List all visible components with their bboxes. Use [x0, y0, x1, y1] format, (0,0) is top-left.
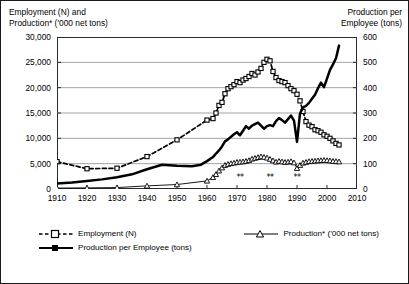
left-axis-title: Employment (N) and Production* ('000 net… — [9, 7, 108, 28]
legend-key-employment-icon — [39, 229, 73, 239]
legend-key-production-icon — [244, 229, 278, 239]
x-axis-tick-label: 1980 — [258, 193, 277, 203]
footnote-asterisk-marker: ** — [293, 173, 300, 182]
y-axis-left-tick-label: 0 — [3, 184, 51, 194]
x-axis-tick-label: 1910 — [48, 193, 67, 203]
series-production-net-tons — [57, 154, 342, 189]
plot-canvas — [57, 37, 357, 189]
legend-label-employment: Employment (N) — [78, 229, 136, 239]
x-axis-tick-label: 1920 — [78, 193, 97, 203]
plot-area — [57, 37, 357, 189]
y-axis-right-tick-label: 0 — [363, 184, 403, 194]
y-axis-left-tick-label: 15,000 — [3, 108, 51, 118]
x-axis-tick-label: 2000 — [318, 193, 337, 203]
footnote-asterisk-marker: ** — [266, 173, 273, 182]
series-employment-n — [57, 57, 341, 171]
x-axis-tick-label: 1950 — [168, 193, 187, 203]
x-axis-tick-label: 1930 — [108, 193, 127, 203]
chart-figure: Employment (N) and Production* ('000 net… — [0, 0, 409, 284]
y-axis-left-tick-label: 10,000 — [3, 133, 51, 143]
x-axis-tick-label: 1970 — [228, 193, 247, 203]
right-axis-title: Production per Employee (tons) — [341, 7, 402, 28]
y-axis-left-tick-label: 5,000 — [3, 159, 51, 169]
legend-key-production-per-employee-icon — [39, 243, 73, 253]
y-axis-left-tick-label: 20,000 — [3, 83, 51, 93]
x-axis-tick-label: 2010 — [348, 193, 367, 203]
y-axis-left-tick-label: 25,000 — [3, 57, 51, 67]
y-axis-right-tick-label: 400 — [363, 83, 403, 93]
legend-item-employment[interactable]: Employment (N) — [39, 229, 244, 239]
series-production-per-employee-tons — [57, 46, 339, 184]
legend-label-production: Production* ('000 net tons) — [283, 229, 379, 239]
legend-item-production[interactable]: Production* ('000 net tons) — [244, 229, 379, 239]
legend-row-2: Production per Employee (tons) — [39, 241, 379, 255]
y-axis-right-tick-label: 600 — [363, 32, 403, 42]
y-axis-right-tick-label: 200 — [363, 133, 403, 143]
legend-label-production-per-employee: Production per Employee (tons) — [78, 243, 192, 253]
x-axis-tick-label: 1990 — [288, 193, 307, 203]
x-axis-tick-label: 1940 — [138, 193, 157, 203]
footnote-asterisk-marker: ** — [236, 173, 243, 182]
y-axis-right-tick-label: 100 — [363, 159, 403, 169]
y-axis-right-tick-label: 500 — [363, 57, 403, 67]
y-axis-left-tick-label: 30,000 — [3, 32, 51, 42]
legend-item-production-per-employee[interactable]: Production per Employee (tons) — [39, 243, 249, 253]
chart-legend: Employment (N) Production* ('000 net ton… — [39, 227, 379, 255]
x-axis-tick-label: 1960 — [198, 193, 217, 203]
y-axis-right-tick-label: 300 — [363, 108, 403, 118]
legend-row-1: Employment (N) Production* ('000 net ton… — [39, 227, 379, 241]
